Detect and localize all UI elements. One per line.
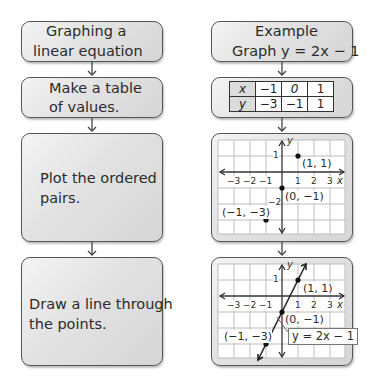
arrow-down-icon xyxy=(276,242,288,257)
step-plot-line2: pairs. xyxy=(40,188,80,208)
example-title-line1: Example xyxy=(255,21,318,41)
table-row-y: y −3 −1 1 xyxy=(230,97,334,112)
example-title-line2: Graph y = 2x − 1 xyxy=(232,41,359,61)
table-cell: −1 xyxy=(256,82,282,97)
step-make-table-line2: of values. xyxy=(49,97,119,117)
arrow-down-icon xyxy=(276,118,288,133)
point-label: (1, 1) xyxy=(302,157,332,170)
table-row-x: x −1 0 1 xyxy=(230,82,334,97)
table-cell: −1 xyxy=(282,97,308,112)
step-make-table-line1: Make a table xyxy=(49,78,142,98)
table-cell: −3 xyxy=(256,97,282,112)
values-table: x −1 0 1 y −3 −1 1 xyxy=(229,81,334,112)
point-label: (−1, −3) xyxy=(222,206,270,219)
point-label: (0, −1) xyxy=(285,313,324,326)
point-0-neg1 xyxy=(279,185,284,190)
point-label: (1, 1) xyxy=(303,282,333,295)
point-label: (−1, −3) xyxy=(224,330,272,343)
point-1-1 xyxy=(295,277,300,282)
step-title-line2: linear equation xyxy=(33,41,143,61)
step-plot-line1: Plot the ordered xyxy=(40,168,157,188)
step-draw-line1: Draw a line through xyxy=(29,294,173,314)
line-points xyxy=(211,257,353,366)
table-header-x: x xyxy=(230,82,256,97)
arrow-down-icon xyxy=(86,62,98,77)
step-draw-line2: the points. xyxy=(29,314,107,334)
point-1-1 xyxy=(295,153,300,158)
arrow-down-icon xyxy=(86,118,98,133)
table-cell: 0 xyxy=(282,82,308,97)
arrow-down-icon xyxy=(276,62,288,77)
table-cell: 1 xyxy=(308,82,334,97)
plotted-points xyxy=(211,133,353,242)
table-header-y: y xyxy=(230,97,256,112)
table-cell: 1 xyxy=(308,97,334,112)
arrow-down-icon xyxy=(86,242,98,257)
step-title-line1: Graphing a xyxy=(46,21,126,41)
point-label: (0, −1) xyxy=(285,190,324,203)
line-equation-label: y = 2x − 1 xyxy=(288,328,358,345)
point-0-neg1 xyxy=(279,309,284,314)
